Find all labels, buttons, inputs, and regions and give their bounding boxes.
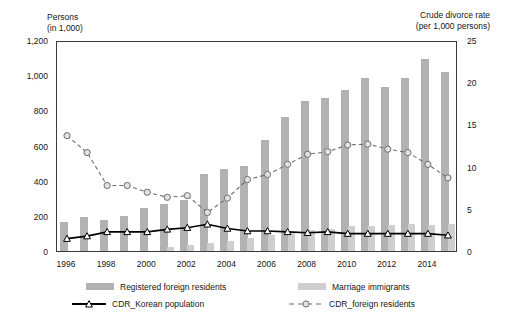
left-axis-tick-label: 800: [14, 106, 48, 116]
legend-swatch-bar-icon: [298, 283, 326, 290]
left-axis-tick-label: 1,000: [14, 71, 48, 81]
marker-cdr-foreign-residents: [445, 175, 451, 181]
marker-cdr-foreign-residents: [284, 161, 290, 167]
right-axis-tick-label: 5: [467, 205, 493, 215]
legend-item[interactable]: Registered foreign residents: [86, 281, 226, 292]
legend-swatch-bar-icon: [86, 283, 114, 290]
legend-swatch-line-solid-icon: [72, 299, 106, 309]
marker-cdr-foreign-residents: [264, 171, 270, 177]
marker-cdr-foreign-residents: [425, 161, 431, 167]
marker-cdr-foreign-residents: [305, 151, 311, 157]
x-axis-tick-label: 2012: [367, 259, 407, 269]
plot-area: [56, 41, 457, 252]
right-axis-tick-label: 0: [467, 247, 493, 257]
legend-item-label: CDR_Korean population: [112, 299, 204, 309]
x-axis-tick-label: 2008: [287, 259, 327, 269]
left-axis-caption: Persons (in 1,000): [47, 12, 83, 33]
left-axis-tick-label: 600: [14, 142, 48, 152]
legend-swatch-line-dashed-icon: [289, 299, 323, 309]
left-axis-tick-label: 400: [14, 177, 48, 187]
chart-legend: Registered foreign residentsMarriage imm…: [0, 281, 512, 321]
marker-cdr-foreign-residents: [365, 141, 371, 147]
right-axis-tick-label: 10: [467, 163, 493, 173]
legend-item-label: Registered foreign residents: [120, 282, 226, 292]
legend-item-label: Marriage immigrants: [332, 282, 409, 292]
legend-item[interactable]: Marriage immigrants: [298, 281, 409, 292]
x-axis-tick-label: 2010: [327, 259, 367, 269]
x-axis-tick-label: 1996: [46, 259, 86, 269]
right-axis-tick-label: 20: [467, 78, 493, 88]
marker-cdr-foreign-residents: [244, 176, 250, 182]
marker-cdr-foreign-residents: [64, 133, 70, 139]
marker-cdr-foreign-residents: [104, 182, 110, 188]
marker-cdr-foreign-residents: [84, 149, 90, 155]
marker-cdr-foreign-residents: [224, 195, 230, 201]
legend-item[interactable]: CDR_foreign residents: [289, 298, 415, 309]
line-cdr-foreign-residents: [67, 136, 448, 213]
marker-cdr-foreign-residents: [385, 146, 391, 152]
x-axis-tick-label: 2004: [206, 259, 246, 269]
x-axis-tick-label: 2000: [126, 259, 166, 269]
right-axis-tick-label: 15: [467, 120, 493, 130]
marker-cdr-foreign-residents: [204, 209, 210, 215]
x-axis-tick-label: 2014: [407, 259, 447, 269]
marker-cdr-foreign-residents: [164, 194, 170, 200]
x-axis-tick-label: 2002: [166, 259, 206, 269]
marker-cdr-foreign-residents: [124, 182, 130, 188]
marker-cdr-foreign-residents: [144, 189, 150, 195]
legend-item-label: CDR_foreign residents: [329, 299, 415, 309]
legend-item[interactable]: CDR_Korean population: [72, 298, 204, 309]
marker-cdr-foreign-residents: [184, 193, 190, 199]
left-axis-tick-label: 0: [14, 247, 48, 257]
marker-cdr-foreign-residents: [325, 149, 331, 155]
line-group: [57, 42, 458, 253]
x-axis-tick-label: 1998: [86, 259, 126, 269]
right-axis-caption: Crude divorce rate (per 1,000 persons): [416, 10, 490, 31]
left-axis-tick-label: 200: [14, 212, 48, 222]
x-axis-tick-label: 2006: [247, 259, 287, 269]
left-axis-tick-label: 1,200: [14, 36, 48, 46]
marker-cdr-foreign-residents: [405, 149, 411, 155]
marker-cdr-foreign-residents: [345, 142, 351, 148]
right-axis-tick-label: 25: [467, 36, 493, 46]
